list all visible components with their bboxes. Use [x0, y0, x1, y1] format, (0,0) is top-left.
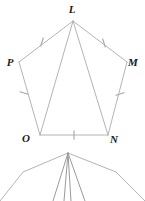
side-OP — [19, 62, 40, 135]
diagonal-LN — [73, 21, 108, 135]
vertex-label-l: L — [68, 3, 76, 15]
ray-left-outer — [0, 153, 68, 201]
diagram-canvas: LMNOP — [0, 0, 145, 201]
tick-OP — [20, 92, 28, 95]
pentagon-sides — [19, 21, 127, 135]
vertex-label-n: N — [109, 133, 119, 145]
side-LM — [73, 21, 127, 62]
vertex-labels: LMNOP — [7, 3, 139, 145]
vertex-label-p: P — [7, 56, 14, 68]
geometry-figure: LMNOP — [0, 0, 145, 201]
ray-right-outer — [68, 153, 145, 201]
vertex-label-m: M — [127, 56, 139, 68]
congruence-ticks — [20, 38, 124, 139]
tick-LM — [103, 39, 106, 47]
tick-MN — [116, 93, 124, 96]
side-MN — [108, 62, 127, 135]
diagonal-LO — [40, 21, 73, 135]
vertex-label-o: O — [22, 132, 30, 144]
side-PL — [19, 21, 73, 62]
partial-figure — [0, 153, 145, 201]
